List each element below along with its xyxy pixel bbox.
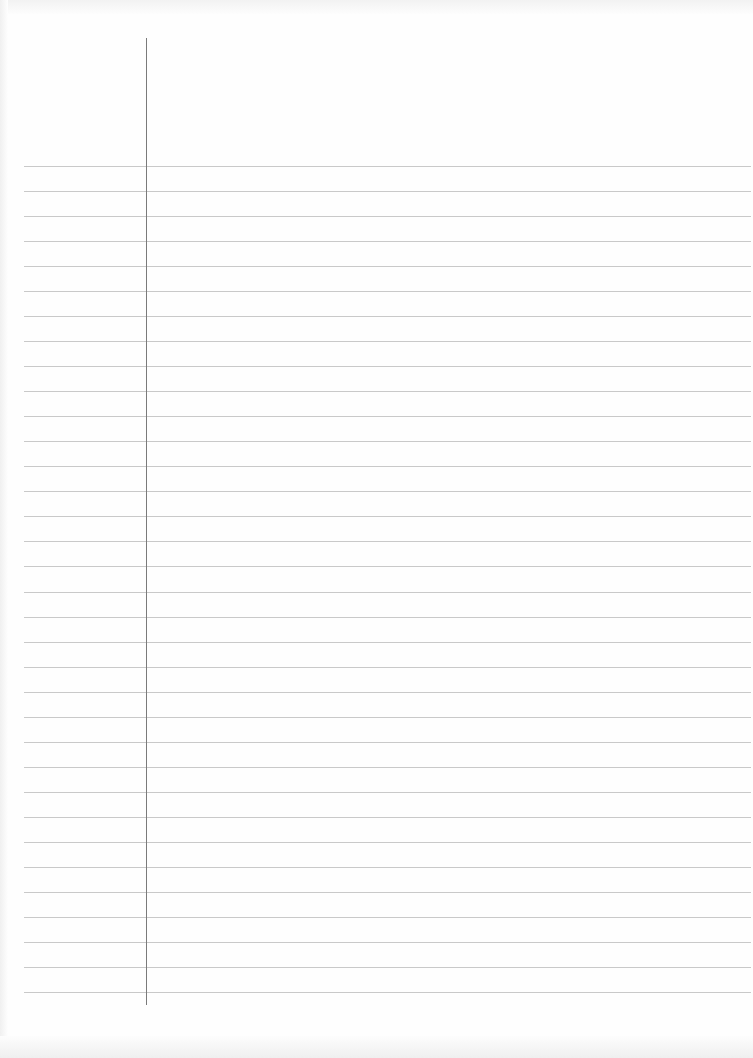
- ruled-line: [24, 842, 751, 843]
- ruled-line: [24, 216, 751, 217]
- paper-left-shadow: [0, 0, 8, 1058]
- ruled-line: [24, 692, 751, 693]
- ruled-line: [24, 266, 751, 267]
- ruled-line: [24, 992, 751, 993]
- ruled-line: [24, 291, 751, 292]
- ruled-line: [24, 967, 751, 968]
- ruled-line: [24, 366, 751, 367]
- ruled-line: [24, 416, 751, 417]
- ruled-line: [24, 667, 751, 668]
- ruled-line: [24, 566, 751, 567]
- ruled-line: [24, 867, 751, 868]
- paper-top-shadow: [0, 0, 753, 14]
- ruled-line: [24, 191, 751, 192]
- ruled-line: [24, 767, 751, 768]
- ruled-line: [24, 717, 751, 718]
- ruled-line: [24, 892, 751, 893]
- ruled-line: [24, 166, 751, 167]
- ruled-line: [24, 441, 751, 442]
- ruled-line: [24, 541, 751, 542]
- ruled-line: [24, 917, 751, 918]
- ruled-line: [24, 617, 751, 618]
- margin-line: [146, 38, 147, 1005]
- ruled-line: [24, 241, 751, 242]
- ruled-line: [24, 341, 751, 342]
- ruled-line: [24, 742, 751, 743]
- ruled-line: [24, 391, 751, 392]
- ruled-line: [24, 592, 751, 593]
- ruled-line: [24, 817, 751, 818]
- ruled-line: [24, 316, 751, 317]
- paper-bottom-shadow: [0, 1036, 753, 1058]
- ruled-line: [24, 792, 751, 793]
- ruled-line: [24, 516, 751, 517]
- ruled-line: [24, 466, 751, 467]
- ruled-line: [24, 642, 751, 643]
- ruled-line: [24, 491, 751, 492]
- ruled-line: [24, 942, 751, 943]
- lined-paper-sheet: [0, 0, 753, 1058]
